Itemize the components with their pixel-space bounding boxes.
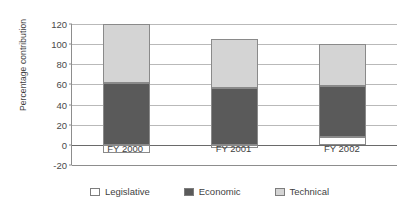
- chart-legend: LegislativeEconomicTechnical: [0, 186, 419, 197]
- legend-label-legislative: Legislative: [105, 186, 150, 197]
- legend-label-economic: Economic: [199, 186, 241, 197]
- y-tick-label-40: 40: [56, 99, 67, 110]
- legend-swatch-economic-icon: [184, 188, 194, 196]
- bar-segment-technical[interactable]: [319, 44, 366, 86]
- bar-segment-economic[interactable]: [103, 83, 150, 144]
- y-tick-label-80: 80: [56, 59, 67, 70]
- legend-swatch-legislative-icon: [90, 188, 100, 196]
- y-tick-label-20: 20: [56, 119, 67, 130]
- x-axis-label-fy-2001: FY 2001: [194, 143, 274, 154]
- x-axis-label-fy-2000: FY 2000: [85, 143, 165, 154]
- legend-label-technical: Technical: [290, 186, 330, 197]
- legend-item-economic[interactable]: Economic: [184, 186, 241, 197]
- bar-segment-economic[interactable]: [211, 88, 258, 144]
- y-tick-label-100: 100: [51, 39, 67, 50]
- bar-segment-technical[interactable]: [211, 39, 258, 88]
- y-tick-label-120: 120: [51, 19, 67, 30]
- bar-segment-economic[interactable]: [319, 86, 366, 136]
- legend-item-technical[interactable]: Technical: [275, 186, 330, 197]
- stacked-bar-chart: Percentage contribution 120100806040200-…: [0, 0, 419, 212]
- x-axis-label-fy-2002: FY 2002: [302, 143, 382, 154]
- y-tick-label-60: 60: [56, 79, 67, 90]
- y-tick-label--20: -20: [53, 160, 67, 171]
- y-tick-label-0: 0: [62, 139, 67, 150]
- bar-segment-technical[interactable]: [103, 24, 150, 83]
- legend-swatch-technical-icon: [275, 188, 285, 196]
- gridline--20: [72, 165, 397, 166]
- legend-item-legislative[interactable]: Legislative: [90, 186, 150, 197]
- y-axis-title: Percentage contribution: [18, 0, 28, 135]
